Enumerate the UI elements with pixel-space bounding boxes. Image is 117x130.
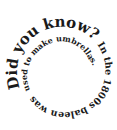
- spiral-svg: Did you know? In the 1800s baleen was us…: [0, 0, 117, 130]
- spiral-text-outer: Did you know? In the 1800s baleen was: [3, 13, 115, 122]
- spiral-text-graphic: Did you know? In the 1800s baleen was us…: [0, 0, 117, 130]
